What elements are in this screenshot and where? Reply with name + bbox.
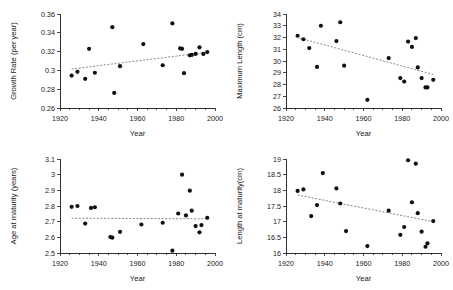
- data-point: [89, 206, 93, 210]
- data-point: [75, 204, 79, 208]
- data-point: [414, 36, 418, 40]
- data-point: [118, 64, 122, 68]
- y-tick-label: 18: [273, 186, 281, 195]
- data-point: [194, 224, 198, 228]
- data-point: [194, 52, 198, 56]
- data-point: [431, 219, 435, 223]
- x-tick-label: 1980: [168, 259, 184, 268]
- data-point: [93, 71, 97, 75]
- y-tick-label: 18.5: [267, 170, 281, 179]
- y-tick-label: 0.28: [41, 85, 55, 94]
- panel-growth-rate-svg: 0.260.280.30.320.340.3619201940196019802…: [0, 0, 227, 145]
- y-tick-label: 31: [273, 45, 281, 54]
- data-point: [93, 205, 97, 209]
- y-tick-label: 3: [51, 170, 55, 179]
- x-tick-label: 1980: [394, 259, 410, 268]
- data-point: [83, 221, 87, 225]
- y-tick-label: 0.34: [41, 28, 55, 37]
- data-point: [205, 216, 209, 220]
- y-axis-title: Maximum Length (cm): [235, 23, 244, 99]
- data-point: [315, 203, 319, 207]
- data-point: [319, 24, 323, 28]
- data-point: [398, 76, 402, 80]
- data-point: [406, 158, 410, 162]
- data-point: [180, 173, 184, 177]
- data-point: [176, 211, 180, 215]
- y-tick-label: 19: [273, 155, 281, 164]
- x-tick-label: 1920: [278, 114, 294, 123]
- panel-growth-rate: 0.260.280.30.320.340.3619201940196019802…: [0, 0, 227, 145]
- data-point: [402, 79, 406, 83]
- y-tick-label: 27: [273, 92, 281, 101]
- data-point: [118, 230, 122, 234]
- x-tick-label: 1960: [356, 114, 372, 123]
- y-tick-label: 17: [273, 217, 281, 226]
- y-tick-label: 2.7: [45, 217, 55, 226]
- trend-line: [298, 195, 434, 222]
- x-tick-label: 1920: [278, 259, 294, 268]
- x-tick-label: 1940: [91, 259, 107, 268]
- x-tick-label: 1960: [130, 259, 146, 268]
- data-point: [182, 71, 186, 75]
- panel-maximum-length-svg: 26272829303132333419201940196019802000Ye…: [226, 0, 453, 145]
- data-point: [83, 77, 87, 81]
- y-tick-label: 16: [273, 249, 281, 258]
- panel-length-at-maturity: 1616.51717.51818.51919201940196019802000…: [226, 145, 453, 290]
- plot-area-age-at-maturity: 2.52.62.72.82.933.119201940196019802000Y…: [9, 155, 223, 283]
- data-point: [70, 73, 74, 77]
- data-point: [321, 171, 325, 175]
- data-point: [296, 34, 300, 38]
- y-tick-label: 0.3: [45, 66, 55, 75]
- y-tick-label: 0.32: [41, 47, 55, 56]
- x-axis-title: Year: [130, 274, 146, 283]
- y-tick-label: 17.5: [267, 202, 281, 211]
- data-point: [75, 70, 79, 74]
- plot-area-length-at-maturity: 1616.51717.51818.51919201940196019802000…: [235, 155, 449, 283]
- x-tick-label: 1960: [356, 259, 372, 268]
- data-point: [425, 85, 429, 89]
- data-point: [141, 42, 145, 46]
- data-point: [410, 200, 414, 204]
- data-point: [420, 76, 424, 80]
- data-point: [190, 209, 194, 213]
- y-tick-label: 0.26: [41, 104, 55, 113]
- data-point: [70, 205, 74, 209]
- data-point: [334, 39, 338, 43]
- data-point: [87, 47, 91, 51]
- data-point: [410, 45, 414, 49]
- y-tick-label: 16.5: [267, 233, 281, 242]
- data-point: [188, 189, 192, 193]
- y-tick-label: 34: [273, 10, 281, 19]
- plot-area-growth-rate: 0.260.280.30.320.340.3619201940196019802…: [9, 10, 223, 138]
- y-axis-title: Length at maturity(cm): [235, 168, 244, 244]
- x-tick-label: 2000: [207, 114, 223, 123]
- data-point: [184, 213, 188, 217]
- y-tick-label: 2.5: [45, 249, 55, 258]
- panel-age-at-maturity: 2.52.62.72.82.933.119201940196019802000Y…: [0, 145, 227, 290]
- panel-length-at-maturity-svg: 1616.51717.51818.51919201940196019802000…: [226, 145, 453, 290]
- x-tick-label: 1940: [317, 259, 333, 268]
- x-tick-label: 1980: [394, 114, 410, 123]
- data-point: [402, 225, 406, 229]
- data-point: [431, 78, 435, 82]
- x-tick-label: 2000: [433, 114, 449, 123]
- data-point: [387, 56, 391, 60]
- trend-line: [72, 218, 210, 219]
- data-point: [112, 91, 116, 95]
- plot-area-maximum-length: 26272829303132333419201940196019802000Ye…: [235, 10, 449, 138]
- data-point: [190, 53, 194, 57]
- y-tick-label: 3.1: [45, 155, 55, 164]
- data-point: [197, 230, 201, 234]
- panel-maximum-length: 26272829303132333419201940196019802000Ye…: [226, 0, 453, 145]
- data-point: [338, 20, 342, 24]
- data-point: [110, 236, 114, 240]
- axis-spines: [286, 159, 441, 253]
- y-tick-label: 30: [273, 57, 281, 66]
- x-tick-label: 2000: [433, 259, 449, 268]
- data-point: [201, 52, 205, 56]
- x-axis-title: Year: [130, 129, 146, 138]
- x-tick-label: 2000: [207, 259, 223, 268]
- data-point: [342, 64, 346, 68]
- data-point: [416, 211, 420, 215]
- x-tick-label: 1980: [168, 114, 184, 123]
